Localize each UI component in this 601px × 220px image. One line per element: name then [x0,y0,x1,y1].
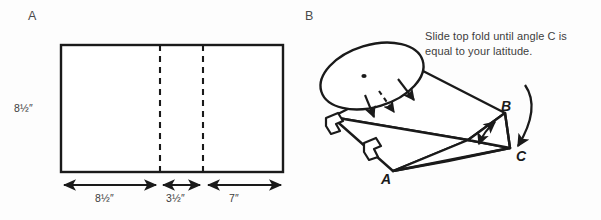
vertex-label-b: B [501,98,511,114]
vertex-label-c: C [516,148,527,164]
vertex-label-a: A [380,171,391,187]
panel-b-group: A B C [312,31,531,187]
diagram-canvas: A B C [0,0,601,220]
template-rectangle [61,45,283,172]
curved-pointer-arrow [518,85,532,146]
disc-center-dot [361,74,366,78]
panel-a-group [61,45,283,185]
figure-root: A B 8½″ 8½″ 3½″ 7″ Slide top fold until … [0,0,601,220]
